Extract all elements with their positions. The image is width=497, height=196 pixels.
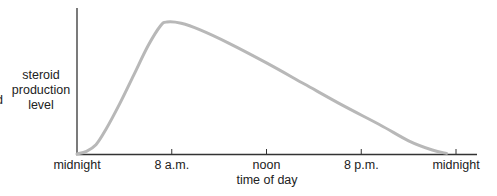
cropped-ylabel-fragment: d [0, 93, 3, 107]
y-axis-label-line-2: production [12, 83, 70, 97]
series-line-steroid-production [77, 22, 447, 154]
x-axis-label: time of day [236, 173, 298, 187]
y-axis-label: steroid production level [12, 68, 70, 112]
x-tick-labels: midnight8 a.m.noon8 p.m.midnight [53, 158, 480, 172]
x-tick-label: 8 a.m. [154, 158, 189, 172]
x-tick-label: midnight [432, 158, 480, 172]
x-ticks [172, 149, 456, 154]
y-axis-label-line-3: level [28, 98, 54, 112]
y-axis-label-line-1: steroid [22, 68, 60, 82]
x-tick-label: midnight [53, 158, 101, 172]
chart: d steroid production level midnight8 a.m… [0, 0, 497, 196]
x-tick-label: noon [253, 158, 281, 172]
x-tick-label: 8 p.m. [344, 158, 379, 172]
